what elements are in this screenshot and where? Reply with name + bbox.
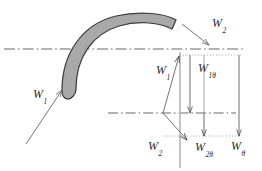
- label-w1-inlet-velocity: W1: [33, 88, 47, 100]
- velocity-triangle-figure: W2 W1 W1 W1θ W2 W2θ Wθ: [0, 0, 262, 171]
- label-w1-vector: W1: [156, 64, 170, 76]
- label-w2theta-tangential: W2θ: [195, 141, 213, 153]
- label-w2-vector: W2: [148, 140, 162, 152]
- cascade-blade: [62, 13, 176, 99]
- label-w1theta-tangential: W1θ: [198, 62, 216, 74]
- label-wtheta-total-tangential: Wθ: [231, 140, 245, 152]
- w2-outlet-arrow: [182, 24, 209, 45]
- label-w2-outlet-velocity: W2: [212, 17, 226, 29]
